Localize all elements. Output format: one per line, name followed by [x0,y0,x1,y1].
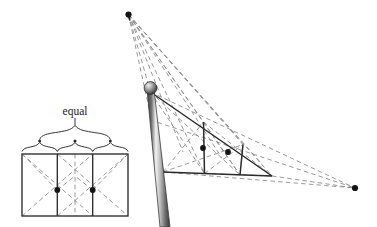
perspective-dot-2 [225,149,231,155]
vanishing-point-right-dot [352,185,358,191]
equal-label: equal [63,105,88,118]
perspective-dot-1 [200,145,206,151]
orthographic-dot-2 [90,187,96,193]
canvas-background [0,0,377,227]
orthographic-dot-1 [54,187,60,193]
perspective-diagram-svg: equal [0,0,377,227]
perspective-figure: equal [0,0,377,227]
mast-finial-ball [144,82,157,95]
